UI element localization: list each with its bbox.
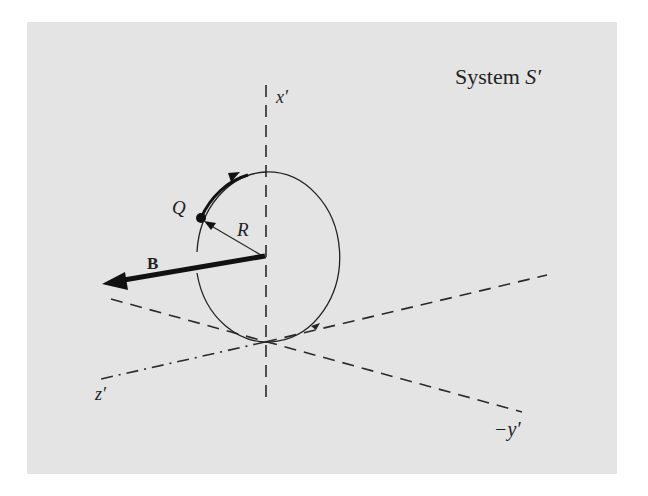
- charge-q-label: Q: [172, 197, 186, 218]
- system-title-symbol: S′: [525, 64, 542, 89]
- system-title-text: System: [455, 64, 525, 89]
- x-prime-label: x′: [275, 87, 289, 107]
- z-prime-label: z′: [94, 384, 107, 404]
- diagram-canvas: System S′ x′ z′ −y′ B Q R: [0, 0, 648, 496]
- neg-y-prime-label: −y′: [494, 418, 521, 441]
- system-title: System S′: [455, 64, 542, 89]
- field-b-label: B: [147, 254, 158, 273]
- figure-panel: [27, 22, 617, 474]
- charge-q-point: [196, 213, 206, 223]
- radius-r-label: R: [236, 219, 249, 240]
